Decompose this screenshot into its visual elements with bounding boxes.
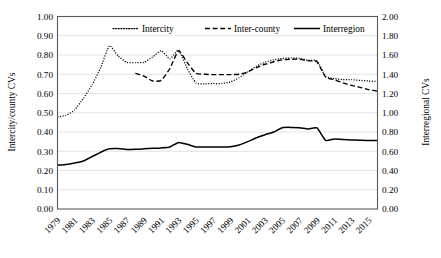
line-chart: 0.000.100.200.300.400.500.600.700.800.90… — [0, 0, 441, 258]
y-axis-right-tick-label: 0.80 — [382, 127, 398, 137]
y-axis-left-tick-label: 0.10 — [37, 185, 53, 195]
y-axis-left-tick-label: 0.90 — [37, 31, 53, 41]
chart-container: 0.000.100.200.300.400.500.600.700.800.90… — [0, 0, 441, 258]
y-axis-right-tick-label: 1.00 — [382, 108, 398, 118]
legend-label-interregion: Interregion — [323, 24, 365, 34]
y-axis-right-tick-label: 1.80 — [382, 31, 398, 41]
y-axis-right-tick-label: 0.40 — [382, 166, 398, 176]
y-axis-left-tick-label: 0.40 — [37, 127, 53, 137]
legend-label-inter-county: Inter-county — [234, 24, 280, 34]
y-axis-right-tick-label: 1.40 — [382, 70, 398, 80]
legend-label-intercity: Intercity — [142, 24, 174, 34]
y-axis-right-tick-label: 2.00 — [382, 12, 398, 22]
y-axis-right-title: Interregional CVs — [421, 78, 431, 146]
y-axis-left-tick-label: 0.50 — [37, 108, 53, 118]
y-axis-right-tick-label: 1.60 — [382, 50, 398, 60]
y-axis-left-title: Intercity/county CVs — [7, 72, 17, 151]
y-axis-left-tick-label: 0.20 — [37, 166, 53, 176]
y-axis-right-tick-label: 0.60 — [382, 147, 398, 157]
y-axis-left-tick-label: 1.00 — [37, 12, 53, 22]
chart-legend: IntercityInter-countyInterregion — [113, 24, 365, 34]
y-axis-left-tick-label: 0.70 — [37, 70, 53, 80]
y-axis-right-tick-label: 1.20 — [382, 89, 398, 99]
y-axis-left-tick-label: 0.80 — [37, 50, 53, 60]
y-axis-right-tick-label: 0.20 — [382, 185, 398, 195]
y-axis-right-tick-label: 0.00 — [382, 204, 398, 214]
chart-background — [0, 0, 441, 258]
y-axis-left-tick-label: 0.30 — [37, 147, 53, 157]
y-axis-left-tick-label: 0.60 — [37, 89, 53, 99]
y-axis-left-tick-label: 0.00 — [37, 204, 53, 214]
